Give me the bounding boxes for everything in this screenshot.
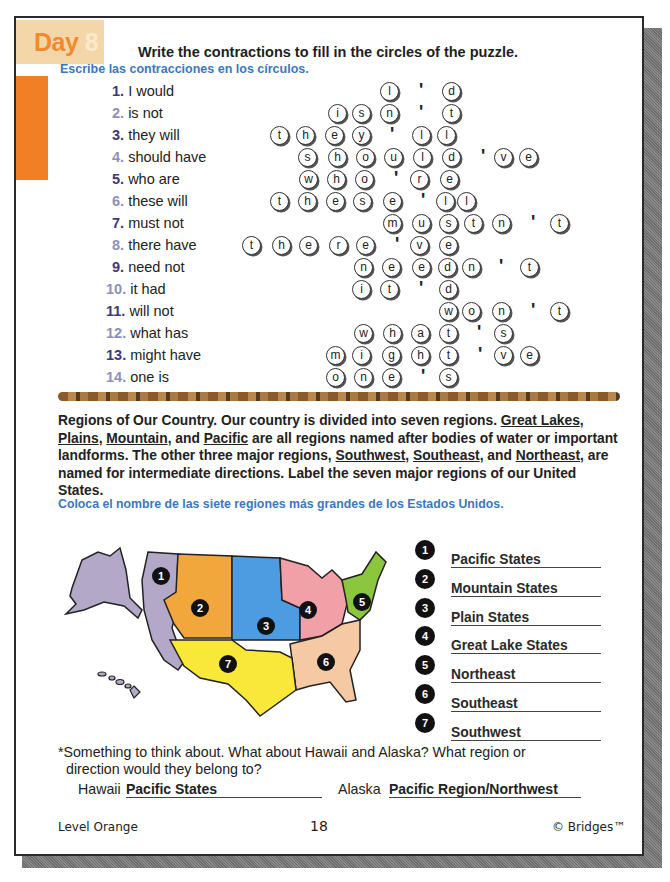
letter-circle[interactable]: w: [299, 170, 318, 189]
region-answer-field[interactable]: Southeast: [451, 696, 601, 712]
letter-circle[interactable]: l: [412, 126, 431, 145]
letter-circle[interactable]: e: [325, 126, 344, 145]
clue-item: 6. these will: [112, 191, 188, 211]
region-answer-field[interactable]: Great Lake States: [451, 638, 601, 654]
letter-circle[interactable]: l: [437, 126, 456, 145]
letter-circle[interactable]: i: [352, 280, 371, 299]
letter-circle[interactable]: l: [413, 148, 432, 167]
letter-circle[interactable]: e: [382, 368, 401, 387]
letter-circle[interactable]: l: [380, 82, 399, 101]
letter-circle[interactable]: n: [462, 258, 481, 277]
letter-circle[interactable]: e: [299, 236, 318, 255]
footer-level: Level Orange: [58, 820, 138, 834]
clue-item: 11. will not: [106, 301, 174, 321]
letter-circle[interactable]: s: [439, 368, 458, 387]
apostrophe-mark: ': [421, 369, 425, 383]
region-answer-row: 4Great Lake States: [415, 626, 605, 654]
letter-circle[interactable]: h: [298, 192, 317, 211]
letter-circle[interactable]: t: [380, 280, 399, 299]
region-answer-field[interactable]: Northeast: [451, 667, 601, 683]
letter-circle[interactable]: s: [494, 324, 513, 343]
letter-circle[interactable]: u: [412, 214, 431, 233]
letter-circle[interactable]: i: [352, 346, 371, 365]
letter-circle[interactable]: n: [492, 214, 511, 233]
letter-circle[interactable]: s: [353, 192, 372, 211]
letter-circle[interactable]: e: [382, 258, 401, 277]
letter-circle[interactable]: d: [442, 82, 461, 101]
hawaii-answer-field[interactable]: Pacific States: [126, 781, 322, 798]
letter-circle[interactable]: s: [298, 148, 317, 167]
region-answer-field[interactable]: Plain States: [451, 610, 601, 626]
paragraph-text: Regions of Our Country. Our country is d…: [58, 413, 501, 428]
letter-circle[interactable]: r: [410, 170, 429, 189]
letter-circle[interactable]: h: [272, 236, 291, 255]
clue-number: 5.: [112, 171, 124, 187]
region-answer-field[interactable]: Pacific States: [451, 552, 601, 568]
letter-circle[interactable]: t: [550, 302, 569, 321]
region-name-underlined: Mountain: [106, 431, 167, 446]
letter-circle[interactable]: r: [329, 236, 348, 255]
region-answer-field[interactable]: Mountain States: [451, 581, 601, 597]
letter-circle[interactable]: h: [328, 148, 347, 167]
region-answer-row: 5Northeast: [415, 655, 605, 683]
letter-circle[interactable]: g: [382, 346, 401, 365]
letter-circle[interactable]: n: [492, 302, 511, 321]
think-about-question: *Something to think about. What about Ha…: [58, 744, 618, 778]
letter-circle[interactable]: n: [354, 368, 373, 387]
letter-circle[interactable]: t: [550, 214, 569, 233]
letter-circle[interactable]: t: [442, 104, 461, 123]
letter-circle[interactable]: u: [384, 148, 403, 167]
letter-circle[interactable]: h: [411, 346, 430, 365]
letter-circle[interactable]: n: [380, 104, 399, 123]
alaska-shape: [66, 548, 142, 618]
letter-circle[interactable]: l: [436, 192, 455, 211]
day-label: Day 8: [34, 28, 98, 57]
letter-circle[interactable]: e: [439, 236, 458, 255]
letter-circle[interactable]: v: [410, 236, 429, 255]
letter-circle[interactable]: m: [383, 214, 402, 233]
letter-circle[interactable]: t: [439, 324, 458, 343]
letter-circle[interactable]: y: [352, 126, 371, 145]
letter-circle[interactable]: o: [355, 170, 374, 189]
letter-circle[interactable]: o: [356, 148, 375, 167]
letter-circle[interactable]: t: [242, 236, 261, 255]
letter-circle[interactable]: w: [354, 324, 373, 343]
alaska-answer-field[interactable]: Pacific Region/Northwest: [389, 781, 581, 798]
letter-circle[interactable]: e: [326, 192, 345, 211]
letter-circle[interactable]: a: [411, 324, 430, 343]
letter-circle[interactable]: w: [439, 302, 458, 321]
letter-circle[interactable]: t: [270, 126, 289, 145]
letter-circle[interactable]: e: [520, 346, 539, 365]
letter-circle[interactable]: e: [412, 258, 431, 277]
letter-circle[interactable]: d: [438, 258, 457, 277]
letter-circle[interactable]: d: [439, 280, 458, 299]
letter-circle[interactable]: v: [494, 346, 513, 365]
letter-circle[interactable]: d: [442, 148, 461, 167]
region-southwest: [170, 640, 296, 716]
letter-circle[interactable]: s: [439, 214, 458, 233]
letter-circle[interactable]: n: [354, 258, 373, 277]
letter-circle[interactable]: t: [270, 192, 289, 211]
letter-circle[interactable]: s: [352, 104, 371, 123]
letter-circle[interactable]: t: [520, 258, 539, 277]
letter-circle[interactable]: t: [464, 214, 483, 233]
letter-circle[interactable]: e: [356, 236, 375, 255]
region-number-badge: 1: [415, 540, 435, 560]
letter-circle[interactable]: o: [462, 302, 481, 321]
letter-circle[interactable]: e: [440, 170, 459, 189]
letter-circle[interactable]: t: [439, 346, 458, 365]
clue-text: will not: [129, 303, 173, 319]
letter-circle[interactable]: m: [326, 346, 345, 365]
hawaii-shape: [98, 672, 140, 698]
map-marker-3: 3: [257, 617, 275, 635]
letter-circle[interactable]: h: [296, 126, 315, 145]
letter-circle[interactable]: e: [383, 192, 402, 211]
letter-circle[interactable]: o: [326, 368, 345, 387]
letter-circle[interactable]: e: [519, 148, 538, 167]
letter-circle[interactable]: h: [383, 324, 402, 343]
letter-circle[interactable]: i: [328, 104, 347, 123]
letter-circle[interactable]: l: [457, 192, 476, 211]
letter-circle[interactable]: v: [494, 148, 513, 167]
letter-circle[interactable]: h: [327, 170, 346, 189]
region-answer-field[interactable]: Southwest: [451, 725, 601, 741]
